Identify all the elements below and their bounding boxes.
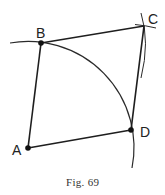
- point-a-dot: [25, 145, 31, 151]
- label-a: A: [12, 142, 22, 158]
- figure-caption: Fig. 69: [66, 176, 99, 188]
- segment-cd: [131, 26, 144, 130]
- point-b-dot: [38, 40, 44, 46]
- segment-bc: [41, 26, 144, 43]
- segment-ab: [28, 43, 41, 148]
- segment-da: [28, 130, 131, 148]
- label-d: D: [140, 124, 150, 140]
- label-c: C: [148, 11, 158, 27]
- geometry-figure: A B C D Fig. 69: [0, 0, 165, 195]
- label-b: B: [36, 25, 45, 41]
- point-d-dot: [128, 127, 134, 133]
